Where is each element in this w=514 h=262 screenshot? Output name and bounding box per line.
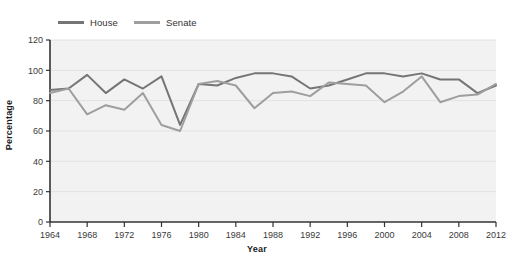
svg-text:1972: 1972 [114, 230, 134, 240]
svg-text:120: 120 [28, 35, 43, 45]
svg-text:60: 60 [33, 126, 43, 136]
svg-text:1968: 1968 [77, 230, 97, 240]
x-axis: 1964196819721976198019841988199219962000… [40, 222, 506, 240]
x-axis-title: Year [0, 244, 514, 254]
svg-text:0: 0 [38, 217, 43, 227]
svg-text:1984: 1984 [226, 230, 246, 240]
y-axis: 020406080100120 [28, 35, 50, 227]
svg-text:2004: 2004 [412, 230, 432, 240]
line-chart: House Senate Percentage 020406080100120 … [0, 0, 514, 262]
svg-text:1976: 1976 [151, 230, 171, 240]
svg-text:2000: 2000 [374, 230, 394, 240]
svg-text:80: 80 [33, 96, 43, 106]
svg-text:1964: 1964 [40, 230, 60, 240]
svg-text:1992: 1992 [300, 230, 320, 240]
svg-text:2008: 2008 [449, 230, 469, 240]
svg-text:1996: 1996 [337, 230, 357, 240]
svg-text:2012: 2012 [486, 230, 506, 240]
svg-text:1980: 1980 [189, 230, 209, 240]
svg-text:1988: 1988 [263, 230, 283, 240]
svg-text:100: 100 [28, 66, 43, 76]
svg-text:40: 40 [33, 157, 43, 167]
plot-area: 020406080100120 196419681972197619801984… [0, 0, 514, 262]
svg-text:20: 20 [33, 187, 43, 197]
